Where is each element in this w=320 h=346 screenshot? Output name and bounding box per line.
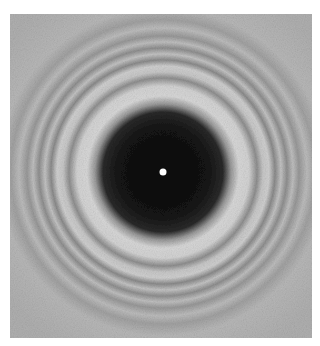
center-bright-spot — [160, 169, 167, 176]
ring-pattern — [10, 14, 312, 338]
diffraction-pattern-svg — [10, 14, 312, 338]
diffraction-pattern-image — [10, 14, 312, 338]
